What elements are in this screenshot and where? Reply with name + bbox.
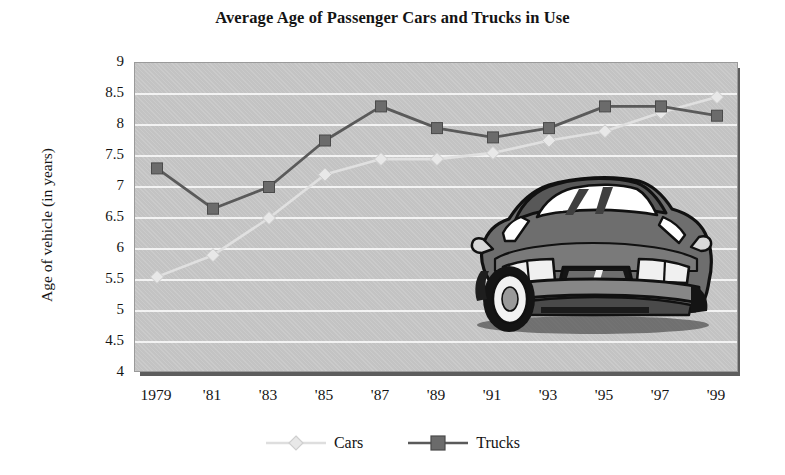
data-point-marker (151, 270, 164, 283)
data-point-marker (600, 101, 611, 112)
data-point-marker (432, 123, 443, 134)
chart-title: Average Age of Passenger Cars and Trucks… (0, 8, 785, 28)
y-tick-label: 8.5 (80, 85, 124, 100)
y-tick-label: 6.5 (80, 209, 124, 224)
data-point-marker (431, 153, 444, 166)
y-tick-label: 7.5 (80, 147, 124, 162)
chart-figure: Average Age of Passenger Cars and Trucks… (0, 0, 785, 475)
data-point-marker (264, 182, 275, 193)
y-tick-label: 4.5 (80, 333, 124, 348)
data-point-marker (711, 91, 724, 104)
data-point-marker (599, 125, 612, 138)
y-axis-tick-labels: 98.587.576.565.554.54 (80, 62, 124, 370)
plot-area (134, 62, 738, 372)
legend-label-cars: Cars (334, 434, 363, 452)
data-point-marker (712, 110, 723, 121)
legend-item-cars: Cars (265, 434, 363, 452)
y-tick-label: 7 (80, 178, 124, 193)
data-point-marker (375, 153, 388, 166)
data-point-marker (376, 101, 387, 112)
data-point-marker (208, 203, 219, 214)
data-point-marker (152, 163, 163, 174)
data-point-marker (543, 134, 556, 147)
data-point-marker (656, 101, 667, 112)
y-tick-label: 5 (80, 302, 124, 317)
legend-item-trucks: Trucks (407, 434, 520, 452)
chart-legend: Cars Trucks (0, 434, 785, 452)
data-point-marker (320, 135, 331, 146)
y-tick-label: 4 (80, 364, 124, 379)
diamond-marker-icon (265, 434, 327, 452)
data-point-marker (487, 146, 500, 159)
x-tick-label: '99 (681, 386, 751, 404)
square-marker-icon (407, 434, 469, 452)
y-tick-label: 8 (80, 116, 124, 131)
data-point-marker (488, 132, 499, 143)
y-tick-label: 9 (80, 54, 124, 69)
series-cars (151, 91, 724, 284)
x-axis-tick-labels: 1979'81'83'85'87'89'91'93'95'97'99 (134, 386, 738, 410)
data-point-marker (544, 123, 555, 134)
legend-label-trucks: Trucks (476, 434, 520, 452)
series-lines (135, 63, 738, 372)
y-tick-label: 5.5 (80, 271, 124, 286)
y-axis-title: Age of vehicle (in years) (38, 100, 56, 350)
y-tick-label: 6 (80, 240, 124, 255)
